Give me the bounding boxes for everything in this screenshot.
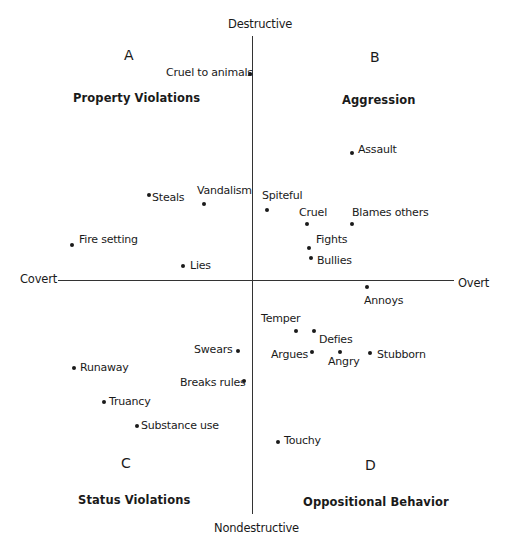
item-label-swears: Swears [194,343,233,356]
marker-annoys [365,285,369,289]
item-label-substance-use: Substance use [141,419,219,432]
vertical-axis-line [252,36,253,514]
axis-label-nondestructive: Nondestructive [214,521,299,535]
quadrant-title-aggression: Aggression [342,93,416,107]
item-label-cruel-to-animals: Cruel to animals [166,66,253,79]
item-label-argues: Argues [271,348,308,361]
horizontal-axis-line [58,280,454,281]
marker-defies [312,329,316,333]
marker-argues [310,350,314,354]
quadrant-letter-c: C [121,455,131,471]
marker-fights [307,246,311,250]
item-label-vandalism: Vandalism [197,184,252,197]
axis-label-destructive: Destructive [228,17,292,31]
item-label-temper: Temper [261,312,300,325]
marker-cruel [305,222,309,226]
marker-spiteful [265,208,269,212]
item-label-blames-others: Blames others [352,206,429,219]
marker-truancy [102,400,106,404]
marker-blames-others [350,222,354,226]
item-label-truancy: Truancy [109,395,150,408]
item-label-cruel: Cruel [299,206,327,219]
quadrant-letter-a: A [124,47,134,63]
axis-label-overt: Overt [458,276,489,290]
marker-substance-use [135,424,139,428]
item-label-defies: Defies [319,333,352,346]
marker-temper [294,329,298,333]
marker-touchy [276,440,280,444]
item-label-annoys: Annoys [364,294,403,307]
item-label-runaway: Runaway [80,361,129,374]
marker-vandalism [202,202,206,206]
axis-label-covert: Covert [20,272,57,286]
item-label-touchy: Touchy [284,434,321,447]
quadrant-title-status-violations: Status Violations [78,493,190,507]
quadrant-letter-b: B [370,49,380,65]
item-label-breaks-rules: Breaks rules [180,376,246,389]
item-label-fights: Fights [316,233,347,246]
item-label-assault: Assault [358,143,397,156]
item-label-lies: Lies [190,259,211,272]
marker-lies [181,264,185,268]
marker-stubborn [368,351,372,355]
marker-fire-setting [70,243,74,247]
marker-steals [147,193,151,197]
item-label-fire-setting: Fire setting [79,233,138,246]
marker-swears [236,349,240,353]
item-label-bullies: Bullies [317,254,352,267]
marker-assault [350,151,354,155]
quadrant-title-property-violations: Property Violations [73,91,200,105]
marker-angry [338,350,342,354]
item-label-stubborn: Stubborn [377,348,426,361]
item-label-spiteful: Spiteful [262,189,302,202]
marker-bullies [309,256,313,260]
quadrant-title-oppositional-behavior: Oppositional Behavior [303,495,449,509]
quadrant-letter-d: D [365,457,376,473]
item-label-steals: Steals [152,191,184,204]
marker-runaway [72,366,76,370]
item-label-angry: Angry [328,355,360,368]
